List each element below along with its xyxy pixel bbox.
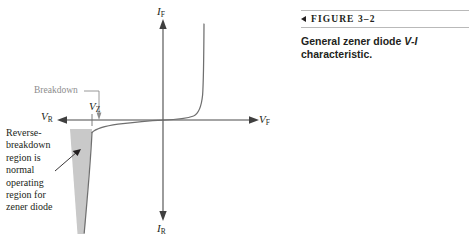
figure-graphic: IF IR VF VR VZ Breakdown Reverse-breakdo… [0,0,286,241]
axis-label-forward-voltage: VF [259,114,270,125]
axis-label-forward-current: IF [157,6,165,17]
reverse-breakdown-region-note: Reverse-breakdown region is normal opera… [6,127,64,214]
figure-caption-block: FIGURE 3–2 General zener diode V-I chara… [301,10,469,61]
axis-label-reverse-current: IR [157,223,166,234]
axis-label-zener-voltage: VZ [89,101,100,112]
vi-curve-forward-and-leakage [92,24,204,133]
caption-header-row: FIGURE 3–2 [301,11,469,27]
caption-text-before: General zener diode [301,35,404,47]
x-axis-left-arrow [57,116,67,123]
figure-caption-text: General zener diode V-I characteristic. [301,28,469,61]
left-triangle-icon [301,16,306,22]
x-axis-right-arrow [249,116,259,123]
y-axis-up-arrow [159,19,166,29]
breakdown-annotation-label: Breakdown [34,86,78,96]
y-axis-down-arrow [159,211,166,221]
figure-number-label: FIGURE 3–2 [311,14,376,24]
caption-text-italic: V-I [404,35,417,47]
axis-label-reverse-voltage: VR [41,111,53,122]
caption-text-after: characteristic. [301,48,372,60]
